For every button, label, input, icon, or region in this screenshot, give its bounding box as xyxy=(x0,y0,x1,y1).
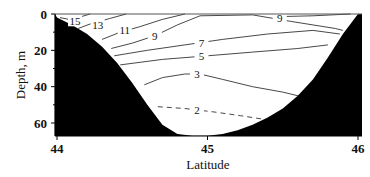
contour-line-3 xyxy=(144,74,305,98)
contour-label-13: 13 xyxy=(92,19,104,31)
y-tick-label: 40 xyxy=(34,79,47,94)
contour-line-11 xyxy=(102,14,185,39)
contour-line-9 xyxy=(111,15,343,49)
y-axis-title: Depth, m xyxy=(13,51,28,99)
contour-label-11: 11 xyxy=(119,24,130,36)
contour-label-9: 9 xyxy=(277,12,283,24)
contour-label-2: 2 xyxy=(194,104,200,116)
contour-label-15: 15 xyxy=(70,15,82,27)
x-tick-label: 46 xyxy=(352,141,366,156)
x-axis-title: Latitude xyxy=(186,157,230,172)
contour-label-7: 7 xyxy=(199,37,205,49)
plot-area: 151311997532 xyxy=(55,12,362,136)
y-tick-label: 0 xyxy=(41,7,48,22)
contour-label-9: 9 xyxy=(152,30,158,42)
x-tick-label: 45 xyxy=(201,141,215,156)
contour-chart: 151311997532 0204060444546 Latitude Dept… xyxy=(0,0,370,177)
contour-label-5: 5 xyxy=(199,50,205,62)
contour-line-5 xyxy=(120,45,328,65)
bathymetry-seabed xyxy=(55,14,362,136)
y-tick-label: 20 xyxy=(34,43,47,58)
contour-label-3: 3 xyxy=(194,68,200,80)
y-tick-label: 60 xyxy=(34,116,47,131)
x-tick-label: 44 xyxy=(51,141,65,156)
contour-line-2 xyxy=(158,107,265,120)
